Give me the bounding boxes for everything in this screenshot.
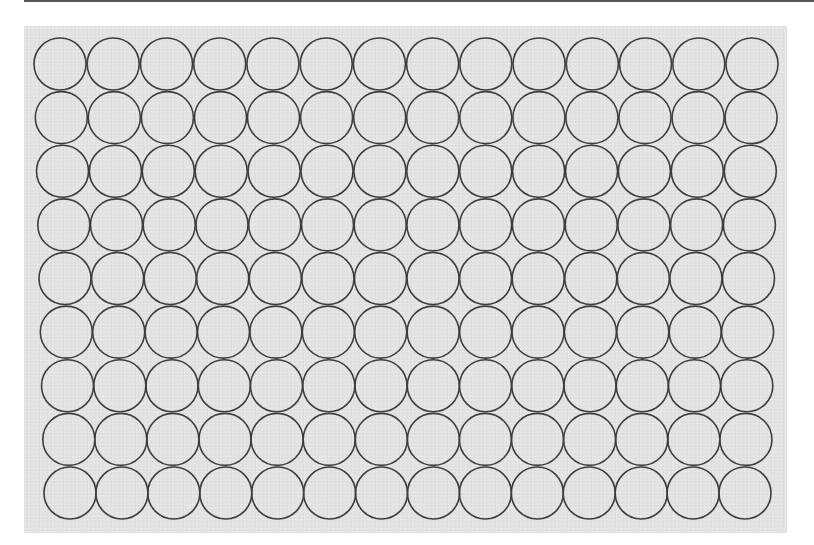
grid-circle <box>198 360 250 412</box>
grid-circle <box>249 199 301 251</box>
grid-circle <box>197 253 249 305</box>
grid-circle <box>250 306 302 358</box>
grid-circle <box>248 92 300 144</box>
grid-circle <box>38 199 90 251</box>
grid-circle <box>513 92 565 144</box>
grid-circle <box>142 145 194 197</box>
grid-circle <box>667 467 719 519</box>
grid-circle <box>672 92 724 144</box>
grid-circle <box>564 413 616 465</box>
grid-circle <box>355 306 407 358</box>
grid-circle <box>671 199 723 251</box>
grid-circle <box>141 92 193 144</box>
grid-circle <box>303 413 355 465</box>
grid-circle <box>673 38 725 90</box>
grid-circle <box>669 306 721 358</box>
grid-circle <box>88 92 140 144</box>
grid-circle <box>407 413 459 465</box>
grid-circle <box>91 199 143 251</box>
grid-circle <box>34 38 86 90</box>
grid-circle <box>723 253 775 305</box>
grid-circle <box>564 360 616 412</box>
grid-circle <box>460 253 512 305</box>
grid-circle <box>251 360 303 412</box>
grid-circle <box>251 413 303 465</box>
grid-circle <box>726 38 778 90</box>
grid-circle <box>355 253 407 305</box>
grid-circle <box>460 38 512 90</box>
grid-circle <box>512 253 564 305</box>
grid-circle <box>721 360 773 412</box>
grid-circle <box>459 413 511 465</box>
grid-circle <box>725 92 777 144</box>
grid-circle <box>96 467 148 519</box>
grid-circle <box>144 253 196 305</box>
grid-circle <box>148 467 200 519</box>
grid-circle <box>616 413 668 465</box>
grid-circle <box>302 306 354 358</box>
grid-circle <box>354 199 406 251</box>
grid-circle <box>408 467 460 519</box>
grid-circle <box>354 92 406 144</box>
grid-circle <box>303 360 355 412</box>
grid-circle <box>669 360 721 412</box>
grid-circle <box>564 306 616 358</box>
grid-circle <box>513 38 565 90</box>
grid-circle <box>92 253 144 305</box>
grid-circle <box>146 360 198 412</box>
grid-circle <box>671 145 723 197</box>
grid-circle <box>354 145 406 197</box>
grid-circle <box>353 38 405 90</box>
grid-circle <box>195 145 247 197</box>
grid-circle <box>300 38 352 90</box>
grid-circle <box>355 413 407 465</box>
grid-circle <box>719 467 771 519</box>
grid-circle <box>460 145 512 197</box>
grid-circle <box>43 413 95 465</box>
grid-circle <box>511 467 563 519</box>
grid-circle <box>668 413 720 465</box>
grid-circle <box>195 92 247 144</box>
grid-circle <box>147 413 199 465</box>
grid-circle <box>194 38 246 90</box>
grid-circle <box>724 145 776 197</box>
grid-circle <box>512 413 564 465</box>
grid-circle <box>407 306 459 358</box>
grid-circle <box>512 199 564 251</box>
grid-circle <box>722 306 774 358</box>
grid-circle <box>566 38 618 90</box>
grid-circle <box>39 253 91 305</box>
grid-circle <box>249 253 301 305</box>
grid-circle <box>618 145 670 197</box>
grid-circle <box>304 467 356 519</box>
grid-circle <box>247 38 299 90</box>
grid-circle <box>563 467 615 519</box>
grid-circle <box>40 306 92 358</box>
grid-circle <box>512 360 564 412</box>
grid-circle <box>619 92 671 144</box>
grid-circle <box>407 92 459 144</box>
grid-circle <box>620 38 672 90</box>
grid-circle <box>44 467 96 519</box>
grid-circle <box>355 360 407 412</box>
grid-circle <box>95 413 147 465</box>
circle-grid-figure <box>0 0 814 545</box>
grid-circle <box>566 145 618 197</box>
grid-circle <box>407 38 459 90</box>
grid-circle <box>460 306 512 358</box>
grid-circle <box>145 306 197 358</box>
grid-circle <box>512 306 564 358</box>
grid-circle <box>143 199 195 251</box>
grid-circle <box>460 199 512 251</box>
grid-circle <box>302 253 354 305</box>
grid-circle <box>407 145 459 197</box>
grid-circle <box>302 199 354 251</box>
grid-circle <box>407 360 459 412</box>
grid-circle <box>200 467 252 519</box>
grid-circle <box>460 92 512 144</box>
grid-circle <box>87 38 139 90</box>
grid-circle <box>407 253 459 305</box>
grid-circle <box>617 306 669 358</box>
grid-circle <box>93 306 145 358</box>
grid-circle <box>94 360 146 412</box>
